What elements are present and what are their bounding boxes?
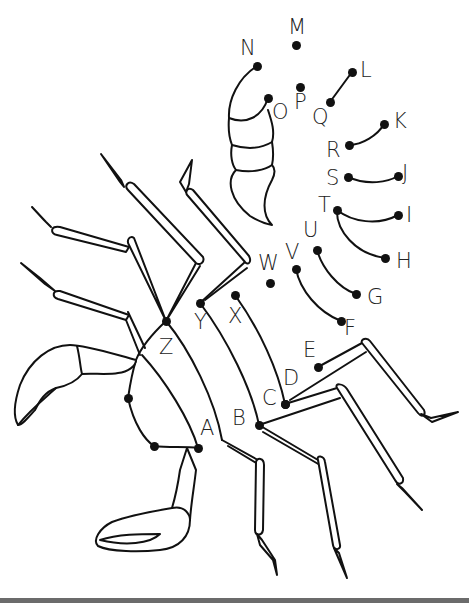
dot-z[interactable] [162, 317, 171, 326]
dot-label-j: J [402, 163, 408, 184]
dot-v[interactable] [292, 265, 301, 274]
dot-label-b: B [232, 408, 246, 429]
dot-k[interactable] [380, 120, 389, 129]
dot-label-v: V [285, 242, 299, 263]
dot-d[interactable] [281, 400, 290, 409]
dot-x[interactable] [231, 291, 240, 300]
dot-label-h: H [396, 251, 412, 272]
dot-label-o: O [272, 102, 289, 123]
dot-label-y: Y [194, 312, 207, 333]
dot-h[interactable] [381, 254, 390, 263]
dot-label-x: X [228, 306, 242, 327]
dot-l[interactable] [348, 68, 357, 77]
dot-w[interactable] [266, 279, 275, 288]
dot-label-s: S [326, 168, 339, 189]
dot-unlabeled-27[interactable] [150, 442, 159, 451]
dot-label-i: I [406, 205, 412, 226]
dot-label-p: P [294, 92, 307, 113]
dot-s[interactable] [344, 173, 353, 182]
dot-label-d: D [283, 368, 299, 389]
dot-label-f: F [344, 318, 356, 339]
dot-label-n: N [240, 38, 256, 59]
dot-label-k: K [393, 111, 407, 132]
dot-label-q: Q [312, 107, 329, 128]
dot-label-c: C [262, 388, 277, 409]
dot-unlabeled-26[interactable] [124, 394, 133, 403]
dot-label-w: W [258, 253, 279, 274]
dot-g[interactable] [352, 290, 361, 299]
dot-label-z: Z [159, 337, 173, 358]
bottom-bar [0, 598, 469, 603]
dot-label-g: G [367, 287, 383, 308]
dot-i[interactable] [394, 211, 403, 220]
dot-b[interactable] [255, 421, 264, 430]
drawing-canvas: ABCDEFGHIJKLMNOPQRSTUVWXYZ [0, 0, 469, 598]
dot-t[interactable] [333, 206, 342, 215]
dot-label-u: U [303, 220, 318, 241]
dot-e[interactable] [314, 363, 323, 372]
dot-y[interactable] [196, 299, 205, 308]
dot-u[interactable] [313, 246, 322, 255]
dot-label-l: L [360, 60, 372, 81]
dot-n[interactable] [253, 62, 262, 71]
dot-label-t: T [318, 195, 331, 216]
dot-a[interactable] [194, 444, 203, 453]
dot-label-e: E [303, 340, 316, 361]
dot-label-a: A [200, 418, 214, 439]
dot-label-r: R [326, 140, 341, 161]
dot-label-m: M [288, 17, 306, 38]
dot-r[interactable] [345, 141, 354, 150]
dot-m[interactable] [292, 41, 301, 50]
